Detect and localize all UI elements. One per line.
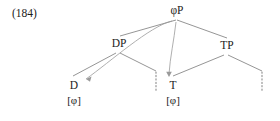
syntax-tree-figure: (184) φP DP TP D T [φ] [φ] [0,0,280,121]
tree-node-phiP: φP [163,4,191,16]
edge-phiP-TP [177,20,227,38]
movement-arrow-phiP-to-T-head [166,72,172,77]
tree-node-t: T [163,79,183,91]
edge-TP-gap [228,55,262,71]
feature-bundle-d: [φ] [60,94,88,106]
tree-node-dp: DP [105,37,133,49]
edge-DP-gap [120,53,156,71]
tree-node-tp: TP [213,39,241,51]
tree-branch-lines [0,0,280,121]
movement-arrow-phiP-to-D-line [86,21,172,79]
edge-TP-T [173,55,224,76]
feature-bundle-t: [φ] [159,94,187,106]
tree-node-d: D [64,79,84,91]
movement-arrow-phiP-to-T-line [169,22,176,74]
